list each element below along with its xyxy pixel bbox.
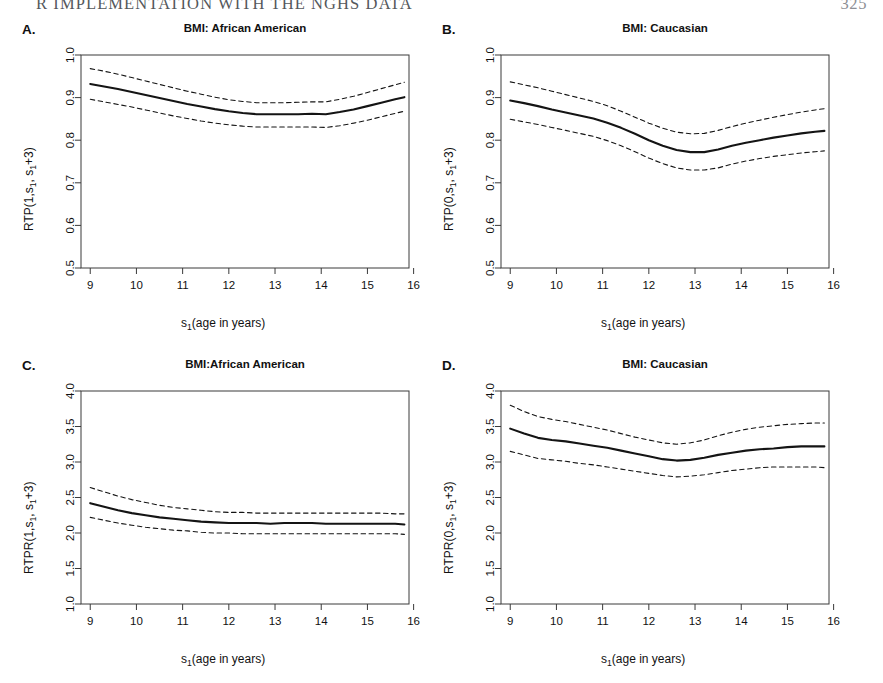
panel-c-xlabel: s1(age in years) — [181, 652, 265, 668]
y-tick-label: 1.5 — [64, 561, 76, 577]
x-tick-label: 13 — [269, 279, 282, 291]
x-tick-label: 10 — [130, 615, 143, 627]
panel-b-plot: 1.00.90.80.70.60.5910111213141516 — [420, 16, 860, 316]
y-tick-label: 4.0 — [64, 383, 76, 399]
x-tick-label: 14 — [735, 615, 748, 627]
x-tick-label: 14 — [315, 279, 328, 291]
xlabel-suffix: (age in years) — [612, 316, 685, 330]
y-tick-label: 0.8 — [64, 132, 76, 148]
y-tick-label: 0.7 — [64, 175, 76, 191]
y-tick-label: 1.0 — [64, 596, 76, 612]
y-tick-label: 0.5 — [484, 260, 496, 276]
x-tick-label: 15 — [781, 279, 794, 291]
y-tick-label: 3.0 — [64, 454, 76, 470]
confidence-band-curve — [90, 69, 404, 103]
x-tick-label: 10 — [550, 279, 563, 291]
panel-a-plot: 1.00.90.80.70.60.5910111213141516 — [0, 16, 440, 316]
y-tick-label: 0.9 — [484, 90, 496, 106]
x-tick-label: 13 — [689, 615, 702, 627]
x-tick-label: 10 — [550, 615, 563, 627]
panel-c-plot: 4.03.53.02.52.01.51.0910111213141516 — [0, 352, 440, 652]
x-tick-label: 14 — [735, 279, 748, 291]
x-tick-label: 16 — [827, 615, 840, 627]
panel-a: A. BMI: African American RTP(1,s1, s1+3)… — [0, 16, 440, 346]
panel-d: D. BMI: Caucasian RTPR(0,s1, s1+3) s1(ag… — [420, 352, 860, 682]
xlabel-suffix: (age in years) — [192, 652, 265, 666]
x-tick-label: 16 — [407, 615, 420, 627]
x-tick-label: 13 — [269, 615, 282, 627]
x-tick-label: 11 — [177, 279, 189, 291]
x-tick-label: 10 — [130, 279, 143, 291]
y-tick-label: 1.5 — [484, 561, 496, 577]
x-tick-label: 16 — [827, 279, 840, 291]
x-tick-label: 12 — [222, 279, 235, 291]
x-tick-label: 12 — [222, 615, 235, 627]
y-tick-label: 2.5 — [64, 490, 76, 506]
y-tick-label: 2.0 — [484, 525, 496, 541]
y-tick-label: 0.7 — [484, 175, 496, 191]
panel-b-xlabel: s1(age in years) — [601, 316, 685, 332]
x-tick-label: 16 — [407, 279, 420, 291]
estimate-curve — [510, 429, 824, 461]
panel-c: C. BMI:African American RTPR(1,s1, s1+3)… — [0, 352, 440, 682]
estimate-curve — [90, 84, 404, 114]
y-tick-label: 1.0 — [484, 47, 496, 63]
y-tick-label: 3.5 — [64, 419, 76, 435]
y-tick-label: 0.6 — [64, 217, 76, 233]
x-tick-label: 9 — [87, 279, 93, 291]
confidence-band-curve — [510, 451, 824, 477]
y-tick-label: 0.8 — [484, 132, 496, 148]
panel-d-plot: 4.03.53.02.52.01.51.0910111213141516 — [420, 352, 860, 652]
x-tick-label: 14 — [315, 615, 328, 627]
estimate-curve — [90, 503, 404, 524]
plot-box — [81, 391, 409, 604]
x-tick-label: 15 — [781, 615, 794, 627]
xlabel-suffix: (age in years) — [612, 652, 685, 666]
x-tick-label: 9 — [87, 615, 93, 627]
y-tick-label: 2.0 — [64, 525, 76, 541]
y-tick-label: 0.5 — [64, 260, 76, 276]
plot-box — [501, 55, 829, 268]
y-tick-label: 3.5 — [484, 419, 496, 435]
xlabel-suffix: (age in years) — [192, 316, 265, 330]
x-tick-label: 15 — [361, 279, 374, 291]
panel-b: B. BMI: Caucasian RTP(0,s1, s1+3) s1(age… — [420, 16, 860, 346]
x-tick-label: 11 — [597, 279, 609, 291]
x-tick-label: 12 — [642, 615, 655, 627]
confidence-band-curve — [510, 119, 824, 170]
y-tick-label: 2.5 — [484, 490, 496, 506]
page-number: 325 — [840, 0, 867, 12]
x-tick-label: 12 — [642, 279, 655, 291]
x-tick-label: 9 — [507, 615, 513, 627]
x-tick-label: 11 — [177, 615, 189, 627]
x-tick-label: 13 — [689, 279, 702, 291]
confidence-band-curve — [510, 405, 824, 444]
x-tick-label: 11 — [597, 615, 609, 627]
x-tick-label: 9 — [507, 279, 513, 291]
estimate-curve — [510, 101, 824, 153]
panel-a-xlabel: s1(age in years) — [181, 316, 265, 332]
plot-box — [501, 391, 829, 604]
confidence-band-curve — [90, 488, 404, 514]
x-tick-label: 15 — [361, 615, 374, 627]
confidence-band-curve — [90, 517, 404, 534]
y-tick-label: 1.0 — [64, 47, 76, 63]
y-tick-label: 4.0 — [484, 383, 496, 399]
panel-d-xlabel: s1(age in years) — [601, 652, 685, 668]
y-tick-label: 0.6 — [484, 217, 496, 233]
running-head-title: R IMPLEMENTATION WITH THE NGHS DATA — [36, 0, 413, 12]
y-tick-label: 0.9 — [64, 90, 76, 106]
y-tick-label: 3.0 — [484, 454, 496, 470]
running-head: R IMPLEMENTATION WITH THE NGHS DATA 325 — [0, 0, 883, 12]
y-tick-label: 1.0 — [484, 596, 496, 612]
confidence-band-curve — [510, 82, 824, 134]
plot-box — [81, 55, 409, 268]
